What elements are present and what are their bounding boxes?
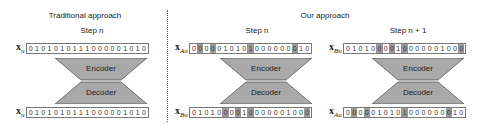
autoencoder-our-n: EncoderDecoder (220, 58, 312, 104)
bit-cell: 0 (458, 44, 464, 53)
autoencoder-traditional: EncoderDecoder (55, 58, 147, 104)
bit-vector: 0000010101000000010 (343, 107, 467, 118)
encoder-label: Encoder (55, 64, 147, 73)
bit-cell: 0 (141, 108, 147, 117)
vector-label: xAu (329, 105, 342, 119)
step-label-traditional: Step n (80, 26, 103, 35)
encoder-label: Encoder (372, 64, 464, 73)
panel-traditional-output: xu0101010111000001010 (16, 106, 149, 118)
encoder-label: Encoder (220, 64, 312, 73)
decoder-label: Decoder (55, 88, 147, 97)
section-title-traditional: Traditional approach (49, 11, 122, 20)
vector-label: xu (16, 41, 25, 55)
bit-cell: 0 (304, 108, 310, 117)
bit-vector: 0101010111000001010 (26, 107, 150, 118)
step-label-our-n: Step n (245, 26, 268, 35)
panel-our-n-input: xAu0000010101000000010 (175, 42, 312, 54)
step-label-our-n1: Step n + 1 (390, 26, 427, 35)
bit-vector: 0000010101000000010 (189, 43, 313, 54)
decoder-label: Decoder (372, 88, 464, 97)
autoencoder-our-n1: EncoderDecoder (372, 58, 464, 104)
bit-vector: 0101010111000001010 (26, 43, 150, 54)
bit-vector: 0101000010000001000 (189, 107, 313, 118)
section-divider (167, 10, 168, 122)
panel-traditional-input: xu0101010111000001010 (16, 42, 149, 54)
vector-label: xu (16, 105, 25, 119)
bit-cell: 0 (458, 108, 464, 117)
section-title-our-approach: Our approach (301, 11, 350, 20)
vector-label: xAu (175, 41, 188, 55)
vector-label: xBu (329, 41, 342, 55)
bit-vector: 0101000010000001000 (343, 43, 467, 54)
vector-label: xBu (175, 105, 188, 119)
panel-our-n1-input: xBu0101000010000001000 (329, 42, 466, 54)
bit-cell: 0 (141, 44, 147, 53)
decoder-label: Decoder (220, 88, 312, 97)
bit-cell: 0 (304, 44, 310, 53)
panel-our-n1-output: xAu0000010101000000010 (329, 106, 466, 118)
panel-our-n-output: xBu0101000010000001000 (175, 106, 312, 118)
